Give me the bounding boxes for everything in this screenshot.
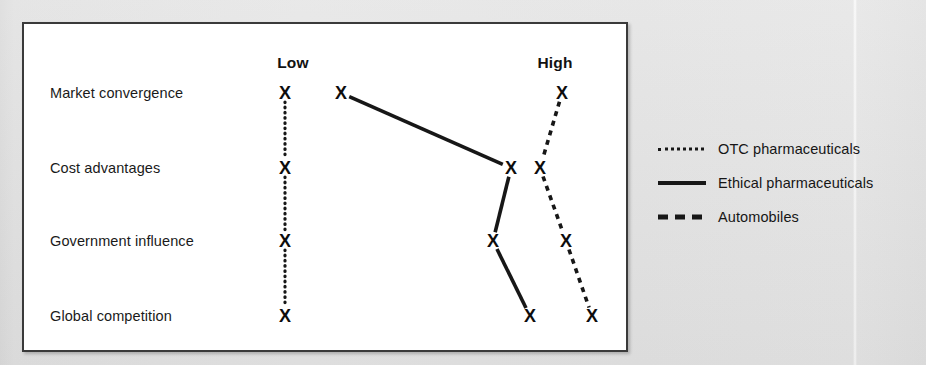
data-point-marker: X <box>279 232 291 250</box>
data-point-marker: X <box>524 307 536 325</box>
data-point-marker: X <box>279 159 291 177</box>
legend-label: Ethical pharmaceuticals <box>718 175 873 191</box>
chart-legend: OTC pharmaceuticalsEthical pharmaceutica… <box>656 132 918 234</box>
data-point-marker: X <box>556 84 568 102</box>
data-point-marker: X <box>279 307 291 325</box>
legend-item-otc-pharmaceuticals: OTC pharmaceuticals <box>656 132 918 166</box>
connector-solid <box>497 249 526 308</box>
data-point-marker: X <box>560 232 572 250</box>
chart-frame: LowHigh Market convergenceCost advantage… <box>22 22 628 352</box>
legend-swatch-dashed-icon <box>656 210 708 224</box>
legend-swatch-dotted-icon <box>656 142 708 156</box>
data-point-marker: X <box>534 159 546 177</box>
data-point-marker: X <box>279 84 291 102</box>
data-point-marker: X <box>487 232 499 250</box>
legend-item-automobiles: Automobiles <box>656 200 918 234</box>
data-point-marker: X <box>335 84 347 102</box>
connector-dashed <box>543 176 563 232</box>
connector-dashed <box>543 102 560 160</box>
legend-swatch-solid-icon <box>656 176 708 190</box>
legend-label: OTC pharmaceuticals <box>718 141 860 157</box>
connector-solid <box>495 177 509 233</box>
connector-dashed <box>569 250 589 308</box>
legend-label: Automobiles <box>718 209 799 225</box>
connector-solid <box>349 97 503 165</box>
data-point-marker: X <box>505 159 517 177</box>
plot-area: LowHigh Market convergenceCost advantage… <box>24 24 626 350</box>
series-connector-lines <box>24 24 626 350</box>
legend-item-ethical-pharmaceuticals: Ethical pharmaceuticals <box>656 166 918 200</box>
page-root: LowHigh Market convergenceCost advantage… <box>0 0 926 365</box>
data-point-marker: X <box>586 307 598 325</box>
